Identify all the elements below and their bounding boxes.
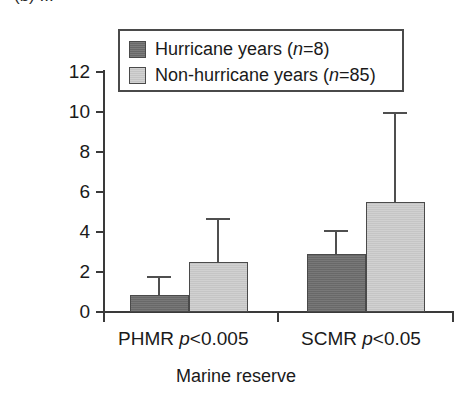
y-axis-title-clip: Mean number of colonies recruited (0, 0, 34, 409)
y-tick-4 (96, 231, 105, 233)
legend-swatch-light-icon (129, 67, 146, 84)
legend-label-nonhurricane-eq: =85) (339, 65, 376, 85)
legend-label-nonhurricane-n: n (329, 65, 339, 85)
y-tick-10 (96, 111, 105, 113)
legend-label-hurricane: Hurricane years (n=8) (155, 40, 330, 58)
bar-scmr-hurricane (307, 254, 366, 312)
errorbar-cap-scmr-nonhurricane (383, 112, 407, 114)
errorbar-cap-phmr-hurricane (147, 276, 171, 278)
errorbar-stem-phmr-hurricane (158, 276, 160, 295)
y-tick-label-2: 2 (50, 262, 90, 281)
y-tick-label-12: 12 (50, 62, 90, 81)
x-tick-left-edge (103, 313, 105, 322)
legend-swatch-dark-icon (129, 41, 146, 58)
x-category-pval-phmr: <0.005 (190, 328, 249, 349)
chart-legend: Hurricane years (n=8) Non-hurricane year… (118, 29, 404, 92)
legend-label-hurricane-eq: =8) (303, 39, 330, 59)
x-category-p-phmr: p (179, 328, 190, 349)
bar-phmr-hurricane (130, 295, 189, 312)
legend-label-hurricane-n: n (293, 39, 303, 59)
legend-label-nonhurricane: Non-hurricane years (n=85) (155, 66, 376, 84)
y-tick-label-0: 0 (50, 302, 90, 321)
y-tick-label-8: 8 (50, 142, 90, 161)
legend-label-hurricane-main: Hurricane years ( (155, 39, 293, 59)
x-category-label-phmr: PHMR p<0.005 (118, 328, 248, 350)
x-axis-title: Marine reserve (0, 366, 472, 387)
y-tick-label-6: 6 (50, 182, 90, 201)
y-tick-8 (96, 151, 105, 153)
errorbar-stem-scmr-hurricane (335, 230, 337, 254)
x-category-pval-scmr: <0.05 (373, 328, 421, 349)
x-category-p-scmr: p (362, 328, 373, 349)
bar-scmr-nonhurricane (366, 202, 425, 312)
errorbar-stem-phmr-nonhurricane (217, 218, 219, 262)
x-category-name-phmr: PHMR (118, 328, 174, 349)
x-tick-right-edge (452, 313, 454, 322)
y-tick-label-10: 10 (50, 102, 90, 121)
x-category-label-scmr: SCMR p<0.05 (301, 328, 421, 350)
x-category-name-scmr: SCMR (301, 328, 357, 349)
y-tick-label-4: 4 (50, 222, 90, 241)
legend-item-hurricane: Hurricane years (n=8) (129, 36, 395, 62)
y-tick-2 (96, 271, 105, 273)
y-tick-6 (96, 191, 105, 193)
bar-phmr-nonhurricane (189, 262, 248, 312)
errorbar-stem-scmr-nonhurricane (394, 112, 396, 202)
x-tick-group-divider (277, 313, 279, 322)
legend-label-nonhurricane-main: Non-hurricane years ( (155, 65, 329, 85)
errorbar-cap-scmr-hurricane (324, 230, 348, 232)
legend-item-nonhurricane: Non-hurricane years (n=85) (129, 62, 395, 88)
errorbar-cap-phmr-nonhurricane (206, 218, 230, 220)
bar-chart-figure: Mean number of colonies recruited 12 10 … (0, 0, 472, 409)
y-tick-12 (96, 71, 105, 73)
